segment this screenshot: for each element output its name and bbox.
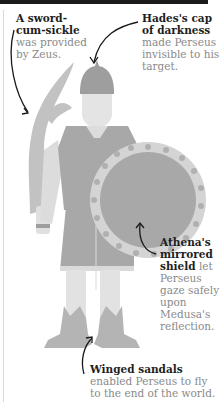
- caption-cap-body: made Perseus invisible to his target.: [142, 36, 219, 72]
- caption-sandals-body: enabled Perseus to fly to the end of the…: [90, 375, 215, 399]
- caption-sword-body: was provided by Zeus.: [16, 36, 87, 60]
- caption-sword-title: A sword-cum-sickle: [16, 12, 80, 36]
- caption-sword: A sword-cum-sickle was provided by Zeus.: [16, 12, 96, 60]
- caption-cap-title: Hades's cap of darkness: [142, 12, 212, 36]
- helmet-icon: [80, 60, 114, 94]
- cap-arrow-icon: [94, 22, 138, 62]
- caption-shield: Athena's mirrored shield let Perseus gaz…: [160, 236, 221, 332]
- caption-cap: Hades's cap of darkness made Perseus inv…: [142, 12, 221, 72]
- caption-sandals-title: Winged sandals: [90, 363, 183, 375]
- caption-sandals: Winged sandals enabled Perseus to fly to…: [90, 363, 221, 399]
